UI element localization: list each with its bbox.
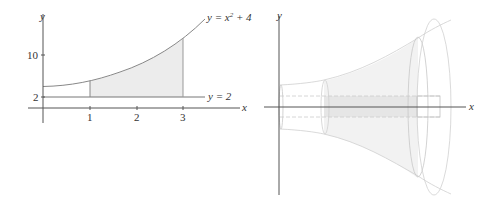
y-tick-label-10: 10 (27, 49, 39, 61)
x-tick-label-1: 1 (87, 111, 93, 123)
figure: 1 2 3 10 2 x y y = x2 + 4 y = 2 x y (0, 0, 499, 201)
x-axis-label-3d: x (468, 100, 474, 112)
x-tick-label-3: 3 (180, 111, 186, 123)
y-tick-label-2: 2 (33, 91, 39, 103)
y-axis-label-3d: y (276, 9, 282, 21)
x-axis-label: x (241, 101, 247, 113)
right-plot: x y (264, 9, 474, 195)
line-label: y = 2 (207, 90, 232, 102)
shaded-region (90, 39, 183, 97)
y-axis-label: y (39, 10, 45, 22)
x-tick-label-2: 2 (134, 111, 140, 123)
curve-label: y = x2 + 4 (206, 11, 252, 23)
left-plot: 1 2 3 10 2 x y y = x2 + 4 y = 2 (27, 10, 252, 123)
